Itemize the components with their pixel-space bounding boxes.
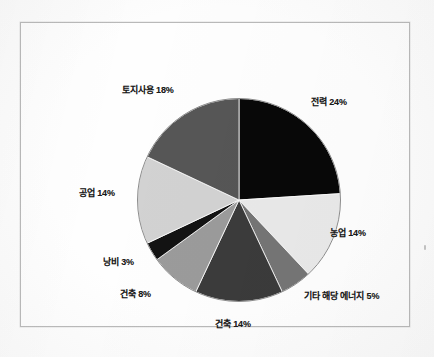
- pie-chart: 토지사용 18% 전력 24% 공업 14% 농업 14% 낭비 3% 기타 해…: [21, 23, 409, 326]
- pie-label-building-14: 건축 14%: [215, 319, 251, 330]
- pie-label-power: 전력 24%: [311, 97, 347, 108]
- pie-label-land-use: 토지사용 18%: [122, 85, 174, 96]
- scanned-figure-page: 토지사용 18% 전력 24% 공업 14% 농업 14% 낭비 3% 기타 해…: [0, 0, 434, 357]
- pie-graphic: [136, 97, 342, 303]
- figure-frame: 토지사용 18% 전력 24% 공업 14% 농업 14% 낭비 3% 기타 해…: [20, 22, 410, 327]
- pie-label-industry: 공업 14%: [79, 188, 115, 199]
- pie-slice: [239, 99, 340, 201]
- pie-slices: [137, 99, 340, 302]
- pie-label-building-8: 건축 8%: [120, 289, 151, 300]
- scan-artifact-speck: [424, 245, 426, 250]
- pie-svg: [136, 97, 342, 303]
- pie-label-other-energy: 기타 해당 에너지 5%: [304, 291, 379, 302]
- pie-label-agriculture: 농업 14%: [330, 228, 366, 239]
- pie-label-waste: 낭비 3%: [103, 257, 134, 268]
